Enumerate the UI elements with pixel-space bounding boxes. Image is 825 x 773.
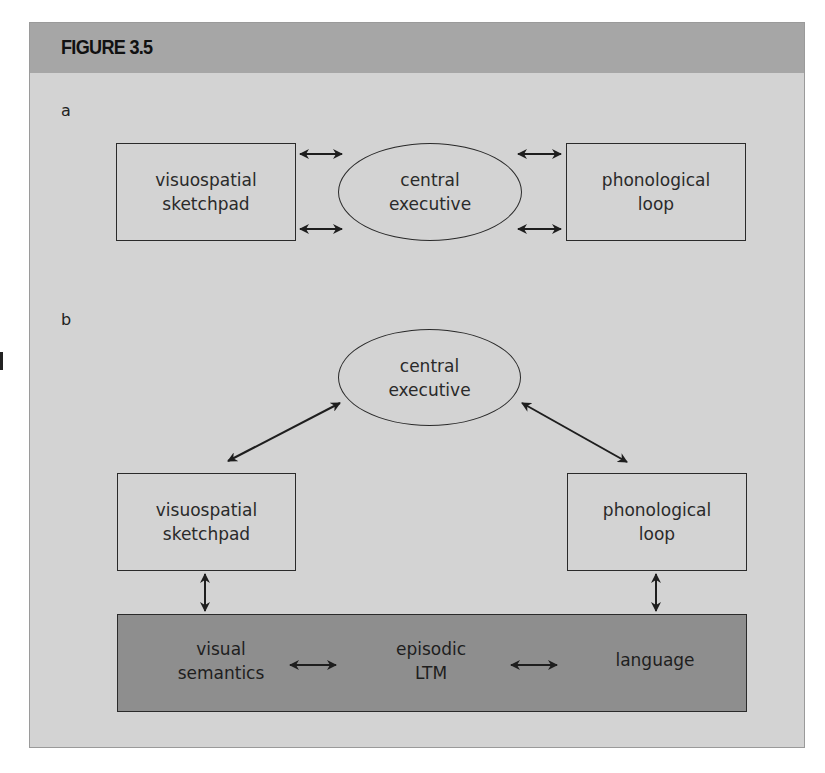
panel-b-label: b [61, 310, 71, 329]
ellipse-label-line2: executive [389, 192, 471, 216]
figure-header: FIGURE 3.5 [30, 23, 804, 73]
box-label-line1: visuospatial [156, 498, 257, 522]
box-label-line2: loop [603, 522, 711, 546]
figure-title: FIGURE 3.5 [61, 35, 152, 59]
ltm-visual-semantics: visual semantics [166, 637, 276, 685]
ellipse-label-line1: central [388, 354, 470, 378]
panel-a-label: a [61, 101, 71, 120]
ltm-label-line1: visual [166, 637, 276, 661]
ltm-label-line2: semantics [166, 661, 276, 685]
panel-a-central-executive-ellipse: central executive [338, 143, 522, 241]
panel-b-phonological-loop-box: phonological loop [567, 473, 747, 571]
box-label-line2: sketchpad [155, 192, 256, 216]
box-label-line1: phonological [603, 498, 711, 522]
panel-a-visuospatial-sketchpad-box: visuospatial sketchpad [116, 143, 296, 241]
ltm-language: language [600, 648, 710, 672]
page-edge-artifact [0, 352, 3, 370]
ellipse-label-line1: central [389, 168, 471, 192]
ltm-label-line2: LTM [376, 661, 486, 685]
ltm-episodic-ltm: episodic LTM [376, 637, 486, 685]
panel-b-central-executive-ellipse: central executive [338, 329, 521, 426]
ltm-label-line1: episodic [376, 637, 486, 661]
box-label-line1: visuospatial [155, 168, 256, 192]
panel-b-visuospatial-sketchpad-box: visuospatial sketchpad [117, 473, 296, 571]
box-label-line1: phonological [602, 168, 710, 192]
ellipse-label-line2: executive [388, 378, 470, 402]
ltm-label-line1: language [600, 648, 710, 672]
box-label-line2: loop [602, 192, 710, 216]
box-label-line2: sketchpad [156, 522, 257, 546]
panel-a-phonological-loop-box: phonological loop [566, 143, 746, 241]
